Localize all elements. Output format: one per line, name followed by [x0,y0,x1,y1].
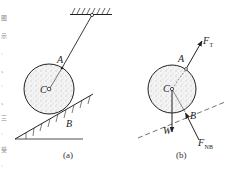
label-c: C [163,83,170,94]
figure-b: A C B FT W FNB (b) [138,35,225,160]
rope [62,16,92,68]
ceiling-support [70,8,112,17]
tension-force-arrow [186,41,202,69]
label-a: A [56,54,64,65]
point-a [61,67,64,70]
side-char: 、 [1,98,7,105]
figure-a: A C B (a) [15,8,112,160]
label-normal: FNB [197,137,213,150]
label-c: C [40,84,47,95]
label-a: A [177,53,185,64]
side-char: 受 [1,146,7,154]
label-b: B [190,110,196,121]
side-char: 三 [1,114,7,121]
side-text-column: 图 示 · 、 · 、 三 · 受 · [1,14,7,169]
side-char: 、 [1,66,7,73]
pin-icon [90,13,93,16]
label-b: B [66,118,72,129]
side-char: · [1,162,3,169]
point-a [185,68,188,71]
caption-a: (a) [63,150,73,160]
side-char: · [1,50,3,57]
point-c [170,87,173,90]
side-char: · [1,82,3,89]
side-char: · [1,130,3,137]
side-char: 图 [1,14,7,22]
label-tension: FT [202,35,214,48]
diagram-canvas: 图 示 · 、 · 、 三 · 受 · [0,0,238,177]
caption-b: (b) [176,150,187,160]
point-c [47,87,51,91]
side-char: 示 [1,32,7,39]
